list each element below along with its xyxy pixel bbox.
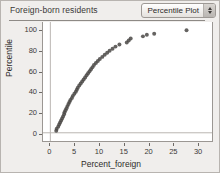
y-tick-label: 60: [4, 67, 37, 76]
x-tick-mark: [149, 143, 150, 146]
x-tick-mark: [49, 143, 50, 146]
y-tick-label: 40: [4, 87, 37, 96]
triangle-down-icon: [208, 11, 212, 14]
y-tick-mark: [39, 30, 42, 31]
x-tick-mark: [124, 143, 125, 146]
title-divider: [9, 20, 205, 21]
y-tick-mark: [39, 134, 42, 135]
plot-type-stepper[interactable]: [203, 4, 215, 17]
plot-area: [42, 22, 213, 142]
y-tick-mark: [39, 51, 42, 52]
y-tick-label: 100: [4, 25, 37, 34]
y-tick-mark: [39, 72, 42, 73]
x-tick-mark: [74, 143, 75, 146]
y-tick-mark: [39, 113, 42, 114]
x-tick-mark: [173, 143, 174, 146]
percentile-plot-window: Foreign-born residents Percentile Plot P…: [0, 0, 220, 173]
x-tick-mark: [198, 143, 199, 146]
y-tick-label: 80: [4, 46, 37, 55]
x-tick-label: 30: [183, 147, 213, 156]
triangle-up-icon: [208, 7, 212, 10]
plot-type-select-label: Percentile Plot: [142, 4, 203, 17]
plot-type-select[interactable]: Percentile Plot: [141, 3, 216, 18]
y-tick-label: 0: [4, 129, 37, 138]
scatter-plot-svg: [43, 22, 212, 141]
y-tick-mark: [39, 92, 42, 93]
x-tick-mark: [99, 143, 100, 146]
y-tick-label: 20: [4, 108, 37, 117]
y-axis-label: Percentile: [4, 28, 14, 88]
x-axis-label: Percent_foreign: [1, 159, 220, 169]
page-title: Foreign-born residents: [10, 5, 98, 15]
window-header: Foreign-born residents Percentile Plot: [1, 1, 220, 22]
